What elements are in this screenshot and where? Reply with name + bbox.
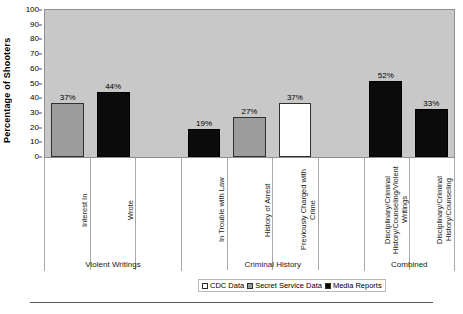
bar-slot: 52% (363, 10, 408, 157)
y-axis-tick-mark (39, 24, 42, 25)
bar[interactable]: 44% (97, 92, 130, 157)
group-label: Criminal History (245, 260, 301, 269)
black-square-icon (325, 283, 331, 289)
bar-slot: 33% (409, 10, 454, 157)
category-label: History of Arrest (228, 161, 273, 258)
category-label: Disciplinary/Criminal History/Counseling (410, 161, 454, 258)
bar[interactable]: 33% (415, 109, 448, 158)
bar-value-label: 27% (241, 108, 257, 116)
legend-label: Secret Service Data (255, 282, 322, 290)
bar[interactable]: 37% (51, 103, 84, 157)
bar-value-label: 19% (196, 120, 212, 128)
plot-area: 37%44%19%27%37%52%33% (44, 9, 455, 158)
y-axis-tick-mark (39, 142, 42, 143)
category-label: In Trouble with Law (182, 161, 227, 258)
y-axis-tick-mark (39, 112, 42, 113)
bar[interactable]: 19% (188, 129, 221, 157)
y-axis-tick-mark (39, 54, 42, 55)
legend-label: CDC Data (210, 282, 244, 290)
group-label: Combined (391, 260, 427, 269)
bar-value-label: 52% (378, 72, 394, 80)
y-axis-tick-10: 10 (30, 138, 39, 146)
y-axis-tick-mark (39, 10, 42, 11)
group-label: Violent Writings (85, 260, 140, 269)
category-label (319, 161, 364, 258)
y-axis-tick-mark (39, 127, 42, 128)
y-axis-tick-70: 70 (30, 50, 39, 58)
category-label: Wrote (91, 161, 136, 258)
category-label: Interest In (45, 161, 90, 258)
group-slot: Combined (364, 249, 455, 271)
y-axis-tick-mark (39, 68, 42, 69)
y-axis-tick-mark (39, 98, 42, 99)
bar[interactable]: 37% (279, 103, 312, 157)
y-axis-tick-80: 80 (30, 35, 39, 43)
bar-slot: 19% (181, 10, 226, 157)
legend-label: Media Reports (333, 282, 382, 290)
bar[interactable]: 52% (369, 81, 402, 157)
group-slot: Criminal History (181, 249, 364, 271)
y-axis-tick-30: 30 (30, 109, 39, 117)
chart-legend: CDC DataSecret Service DataMedia Reports (198, 279, 386, 292)
bar-value-label: 33% (423, 100, 439, 108)
bar[interactable]: 27% (233, 117, 266, 157)
category-label: Previously Charged with Crime (273, 161, 318, 258)
y-axis-tick-mark (39, 157, 42, 158)
legend-item[interactable]: CDC Data (202, 282, 244, 290)
bar-slot (318, 10, 363, 157)
footer-divider (30, 302, 433, 303)
y-axis-tick-90: 90 (30, 21, 39, 29)
y-axis-tick-20: 20 (30, 124, 39, 132)
bar-value-label: 37% (60, 94, 76, 102)
group-label-row: Violent WritingsCriminal HistoryCombined (44, 249, 455, 271)
gray-square-icon (247, 283, 253, 289)
y-axis-tick-50: 50 (30, 80, 39, 88)
category-label: Disciplinary/Criminal History/Counseling… (365, 161, 410, 258)
y-axis-tick-mark (39, 83, 42, 84)
chart-figure: Percentage of Shooters 10090807060504030… (0, 0, 463, 314)
bar-value-label: 37% (287, 94, 303, 102)
y-axis-tick-40: 40 (30, 94, 39, 102)
category-label (136, 161, 181, 258)
y-axis-tick-100: 100 (26, 6, 39, 14)
y-axis-tick-60: 60 (30, 65, 39, 73)
white-square-icon (202, 283, 208, 289)
y-axis-tick-labels: 1009080706050403020100 (18, 9, 42, 158)
bar-slot: 44% (90, 10, 135, 157)
y-axis-tick-mark (39, 39, 42, 40)
group-slot: Violent Writings (44, 249, 181, 271)
bar-slot: 27% (227, 10, 272, 157)
legend-item[interactable]: Secret Service Data (247, 282, 322, 290)
y-axis-title: Percentage of Shooters (0, 30, 14, 150)
bar-slot (136, 10, 181, 157)
bar-series-container: 37%44%19%27%37%52%33% (45, 10, 454, 157)
legend-item[interactable]: Media Reports (325, 282, 382, 290)
bar-value-label: 44% (105, 83, 121, 91)
bar-slot: 37% (272, 10, 317, 157)
bar-slot: 37% (45, 10, 90, 157)
